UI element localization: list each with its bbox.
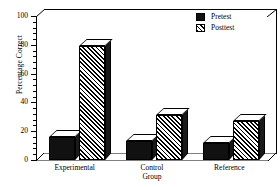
x-label-control: Control: [113, 163, 190, 172]
bar-side-face: [182, 109, 188, 160]
y-tick-label-20: 20: [4, 127, 28, 135]
legend-item-pretest: Pretest: [196, 13, 234, 21]
bar-front-face: [203, 143, 229, 160]
bar-reference-pretest: [203, 143, 229, 160]
bar-front-face: [49, 137, 75, 160]
legend: PretestPosttest: [196, 13, 234, 35]
bar-control-pretest: [126, 141, 152, 160]
bar-control-posttest: [156, 115, 182, 160]
legend-item-posttest: Posttest: [196, 24, 234, 32]
bar-front-face: [126, 141, 152, 160]
bar-experimental-posttest: [79, 46, 105, 160]
bars-container: [36, 16, 268, 160]
y-tick-label-0: 0: [4, 156, 28, 164]
bar-side-face: [259, 114, 265, 160]
bar-reference-posttest: [233, 121, 259, 160]
bar-front-face: [233, 121, 259, 160]
legend-swatch-pretest: [196, 13, 205, 21]
legend-label: Posttest: [211, 24, 234, 32]
legend-swatch-posttest: [196, 24, 205, 32]
bar-front-face: [79, 46, 105, 160]
bar-experimental-pretest: [49, 137, 75, 160]
legend-label: Pretest: [211, 13, 231, 21]
bar-chart: 020406080100 Percentage Correct Experime…: [0, 0, 280, 187]
y-tick-0: [31, 160, 36, 161]
x-label-experimental: Experimental: [36, 163, 113, 172]
y-tick-label-100: 100: [4, 12, 28, 20]
bar-front-face: [156, 115, 182, 160]
x-label-reference: Reference: [191, 163, 268, 172]
x-axis-title: Group: [36, 172, 268, 181]
frame-corner-top-right: [267, 9, 277, 17]
bar-side-face: [105, 40, 111, 160]
y-axis-title: Percentage Correct: [15, 20, 24, 110]
